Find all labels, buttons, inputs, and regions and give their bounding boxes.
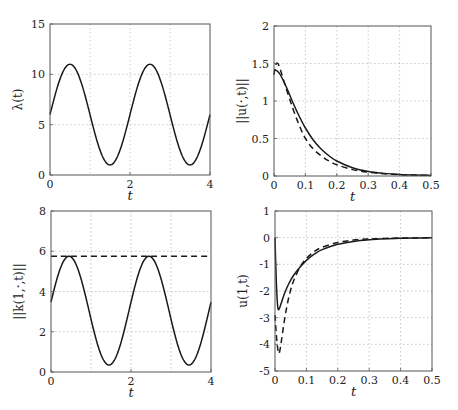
y-tick-label: 6 <box>39 245 46 258</box>
y-tick-label: 2 <box>39 326 46 339</box>
x-axis-label: t <box>127 188 133 203</box>
u-boundary-plot: 00.10.20.30.40.5-5-4-3-2-101tu(1,t) <box>236 205 441 399</box>
x-tick-label: 0 <box>47 178 54 191</box>
y-tick-label: 5 <box>38 119 45 132</box>
x-axis-label: t <box>351 384 357 399</box>
series-solid <box>51 256 211 365</box>
y-tick-label: -1 <box>259 258 270 271</box>
x-tick-label: 0.1 <box>297 179 315 192</box>
x-tick-label: 0.2 <box>329 374 347 387</box>
series-lambda <box>50 64 210 165</box>
grid <box>50 24 210 175</box>
y-tick-label: 1 <box>262 95 269 108</box>
y-tick-label: 0 <box>263 232 270 245</box>
x-axis-label: t <box>128 385 134 400</box>
y-axis-label: ||k(1,·,t)|| <box>12 263 26 320</box>
figure: 024051015tλ(t) 00.10.20.30.40.500.511.52… <box>0 0 458 410</box>
x-tick-label: 0 <box>48 375 55 388</box>
x-tick-label: 0.4 <box>392 374 410 387</box>
y-tick-label: 2 <box>262 20 269 33</box>
grid <box>275 211 432 371</box>
x-tick-label: 0.5 <box>423 374 441 387</box>
y-tick-label: -2 <box>259 285 270 298</box>
y-axis-label: ||u(·,t)|| <box>235 78 249 124</box>
y-tick-label: 1.5 <box>252 58 270 71</box>
series-dashed <box>275 238 432 354</box>
x-axis-label: t <box>350 189 356 204</box>
y-tick-label: 4 <box>39 286 46 299</box>
y-axis-label: u(1,t) <box>236 274 250 307</box>
y-tick-label: 10 <box>31 68 45 81</box>
y-tick-label: 0 <box>38 169 45 182</box>
x-tick-label: 0 <box>271 179 278 192</box>
lambda-plot: 024051015tλ(t) <box>11 18 214 203</box>
figure-canvas: 024051015tλ(t) 00.10.20.30.40.500.511.52… <box>0 0 458 410</box>
y-tick-label: 0 <box>39 366 46 379</box>
y-tick-label: -4 <box>259 338 270 351</box>
x-tick-label: 4 <box>207 178 214 191</box>
y-tick-label: 0 <box>262 170 269 183</box>
x-tick-label: 0.5 <box>422 179 440 192</box>
y-tick-label: 15 <box>31 18 45 31</box>
k-norm-plot: 02402468t||k(1,·,t)|| <box>12 205 215 400</box>
x-tick-label: 0.1 <box>298 374 316 387</box>
u-norm-plot: 00.10.20.30.40.500.511.52t||u(·,t)|| <box>235 20 440 204</box>
x-tick-label: 4 <box>208 375 215 388</box>
y-tick-label: -3 <box>259 312 270 325</box>
y-tick-label: 1 <box>263 205 270 218</box>
y-tick-label: -5 <box>259 365 270 378</box>
x-tick-label: 0.3 <box>360 374 378 387</box>
grid <box>51 211 211 372</box>
series-solid <box>275 238 432 310</box>
x-tick-label: 0.2 <box>328 179 346 192</box>
y-tick-label: 0.5 <box>252 133 270 146</box>
x-tick-label: 0 <box>272 374 279 387</box>
y-tick-label: 8 <box>39 205 46 218</box>
y-axis-label: λ(t) <box>11 89 25 111</box>
x-tick-label: 0.3 <box>359 179 377 192</box>
grid <box>274 26 431 176</box>
x-tick-label: 0.4 <box>391 179 409 192</box>
series-dashed <box>274 63 431 175</box>
